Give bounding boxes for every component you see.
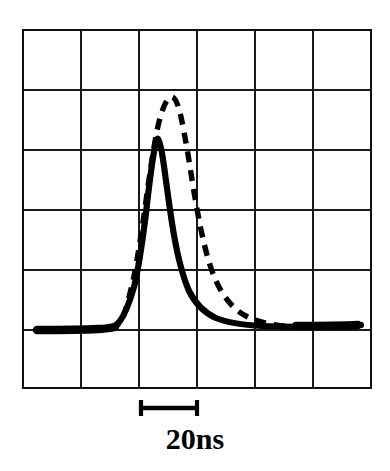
trace-dashed-pulse [110, 97, 316, 329]
trace-solid-baseline-right [296, 325, 358, 326]
scale-bar-label: 20ns [0, 424, 390, 454]
trace-solid-pulse [104, 139, 361, 329]
scale-bar [141, 400, 197, 416]
oscilloscope-figure [0, 0, 390, 471]
